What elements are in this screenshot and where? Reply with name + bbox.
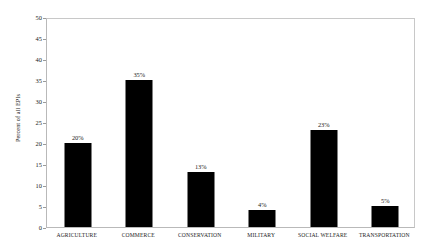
bar-value-label: 35%: [133, 71, 145, 78]
bar-group: 20%: [47, 19, 109, 227]
x-axis-category-label: SOCIAL WELFARE: [292, 232, 354, 239]
y-axis-tick-label: 10: [22, 183, 42, 189]
y-axis-tick-label: 45: [22, 36, 42, 42]
bar-chart-figure: Percent of all EPIs 05101520253035404550…: [0, 0, 434, 252]
y-axis-tick-label: 35: [22, 78, 42, 84]
bar: [372, 206, 399, 227]
bar: [187, 172, 214, 227]
y-axis-tick-label: 50: [22, 15, 42, 21]
bar-group: 13%: [170, 19, 232, 227]
bar-group: 4%: [232, 19, 294, 227]
bar-value-label: 23%: [318, 121, 330, 128]
bar-value-label: 5%: [381, 197, 390, 204]
y-axis-tick-labels: 05101520253035404550: [22, 18, 42, 228]
x-axis-category-label: CONSERVATION: [169, 232, 231, 239]
y-axis-tick-mark: [43, 228, 46, 229]
bar: [249, 210, 276, 227]
bar: [310, 130, 337, 227]
y-axis-tick-label: 15: [22, 162, 42, 168]
bars-layer: 20%35%13%4%23%5%: [47, 19, 414, 227]
bar-group: 23%: [293, 19, 355, 227]
bar-group: 5%: [355, 19, 417, 227]
y-axis-tick-label: 25: [22, 120, 42, 126]
x-axis-category-label: COMMERCE: [108, 232, 170, 239]
bar: [64, 143, 91, 227]
x-axis-category-label: MILITARY: [231, 232, 293, 239]
bar-group: 35%: [109, 19, 171, 227]
bar-value-label: 4%: [258, 201, 267, 208]
x-axis-category-labels: AGRICULTURECOMMERCECONSERVATIONMILITARYS…: [46, 232, 415, 246]
y-axis-tick-label: 20: [22, 141, 42, 147]
y-axis-tick-label: 5: [22, 204, 42, 210]
bar: [126, 80, 153, 227]
x-axis-category-label: AGRICULTURE: [46, 232, 108, 239]
bar-value-label: 20%: [72, 134, 84, 141]
bar-value-label: 13%: [195, 163, 207, 170]
x-axis-category-label: TRANSPORTATION: [354, 232, 416, 239]
y-axis-tick-label: 0: [22, 225, 42, 231]
plot-area: 20%35%13%4%23%5%: [46, 18, 415, 228]
y-axis-tick-label: 40: [22, 57, 42, 63]
y-axis-tick-label: 30: [22, 99, 42, 105]
